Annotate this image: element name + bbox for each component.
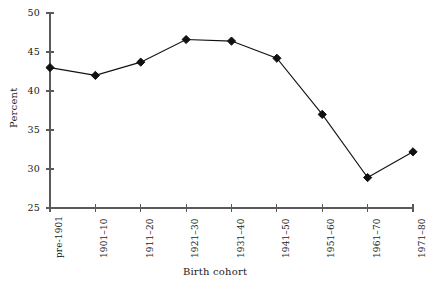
x-axis-tick-label: 1911–20 — [145, 218, 155, 258]
x-axis-tick-label: 1971–80 — [417, 218, 427, 258]
y-axis-tick-label: 45 — [14, 46, 40, 57]
data-point-marker — [227, 37, 235, 45]
x-axis-tick-label: 1931–40 — [236, 218, 246, 258]
y-axis-tick-label: 50 — [14, 7, 40, 18]
x-axis-title: Birth cohort — [0, 266, 430, 277]
x-axis-tick-label: 1921–30 — [190, 218, 200, 258]
x-axis-tick-label: 1961–70 — [372, 218, 382, 258]
data-point-marker — [137, 58, 145, 66]
chart-figure: 253035404550 pre-19011901–101911–201921–… — [0, 0, 430, 290]
y-axis-tick-label: 30 — [14, 163, 40, 174]
data-point-marker — [182, 35, 190, 43]
x-axis-tick-label: 1941–50 — [281, 218, 291, 258]
x-axis-tick-label: 1901–10 — [99, 218, 109, 258]
y-axis-tick-label: 25 — [14, 202, 40, 213]
data-point-marker — [409, 148, 417, 156]
data-point-markers — [46, 35, 417, 181]
x-axis-tick-label: 1951–60 — [326, 218, 336, 258]
y-axis-title: Percent — [8, 88, 19, 128]
line-chart-plot — [0, 0, 430, 290]
x-axis-tick-label: pre-1901 — [54, 216, 64, 258]
data-point-marker — [91, 71, 99, 79]
data-series-line — [50, 40, 413, 178]
data-point-marker — [364, 173, 372, 181]
data-point-marker — [46, 64, 54, 72]
